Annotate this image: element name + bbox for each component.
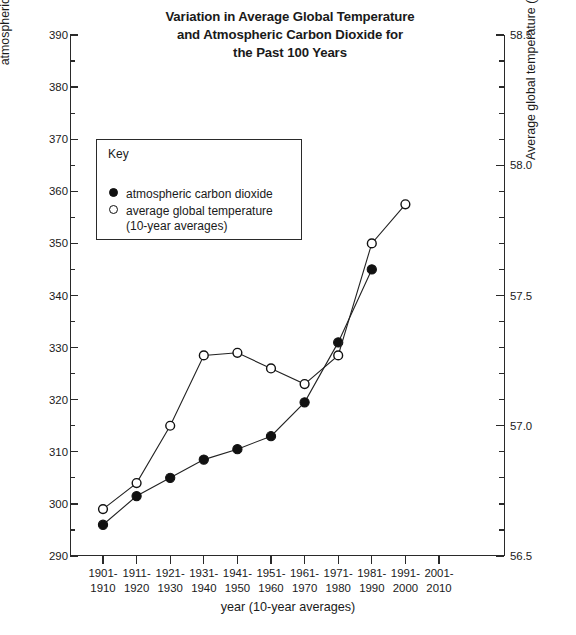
data-point-marker <box>199 351 208 360</box>
y-axis-left-tick-label: 320 <box>49 394 68 406</box>
series-line <box>103 269 372 524</box>
y-axis-right-tick-label: 56.5 <box>510 550 532 562</box>
y-axis-right-title: Average global temperature (°C) <box>524 0 538 160</box>
x-axis-tick <box>237 555 238 564</box>
y-axis-left-tick-label: 360 <box>49 185 68 197</box>
x-axis-tick <box>304 555 305 564</box>
y-axis-left-tick-label: 340 <box>49 290 68 302</box>
legend-heading: Key <box>108 147 129 161</box>
data-point-marker <box>233 445 242 454</box>
legend-item-label: average global temperature (10-year aver… <box>126 204 273 235</box>
x-axis-tick <box>438 555 439 564</box>
data-point-marker <box>132 491 141 500</box>
x-axis-tick <box>270 555 271 564</box>
x-axis-tick <box>102 555 103 564</box>
x-axis-tick <box>371 555 372 564</box>
data-point-marker <box>300 380 309 389</box>
y-axis-left-tick-label: 290 <box>49 550 68 562</box>
y-axis-right-tick-label: 57.5 <box>510 290 532 302</box>
plot-area: 290300310320330340350360370380390 56.557… <box>70 35 505 556</box>
data-point-marker <box>300 398 309 407</box>
data-point-marker <box>166 421 175 430</box>
data-point-marker <box>199 455 208 464</box>
series-lines <box>70 35 505 556</box>
data-point-marker <box>334 351 343 360</box>
x-axis-tick-label: 2001- 2010 <box>414 566 464 595</box>
y-axis-left-tick-label: 310 <box>49 446 68 458</box>
series-line <box>103 204 405 509</box>
y-axis-right-tick-label: 58.0 <box>510 159 532 171</box>
y-axis-right-tick-label: 57.0 <box>510 420 532 432</box>
data-point-marker <box>266 432 275 441</box>
data-point-marker <box>233 348 242 357</box>
data-point-marker <box>132 479 141 488</box>
x-axis-tick <box>170 555 171 564</box>
y-axis-left-tick-label: 380 <box>49 81 68 93</box>
x-axis-tick <box>203 555 204 564</box>
y-axis-left-tick-label: 330 <box>49 342 68 354</box>
data-point-marker <box>367 265 376 274</box>
y-axis-left-tick-label: 370 <box>49 133 68 145</box>
legend-item-global-temperature: average global temperature (10-year aver… <box>109 188 273 235</box>
y-axis-left-tick-label: 300 <box>49 498 68 510</box>
x-axis-tick <box>136 555 137 564</box>
data-point-marker <box>166 473 175 482</box>
y-axis-left-tick-label: 350 <box>49 237 68 249</box>
data-point-marker <box>267 364 276 373</box>
legend: Key atmospheric carbon dioxide average g… <box>96 139 302 240</box>
x-axis-title: year (10-year averages) <box>0 600 576 614</box>
y-axis-left-tick-label: 390 <box>49 29 68 41</box>
data-point-marker <box>367 239 376 248</box>
chart-figure: Variation in Average Global Temperature … <box>0 0 576 635</box>
x-axis-tick <box>338 555 339 564</box>
x-axis-tick <box>405 555 406 564</box>
y-axis-left-title: atmospheric carbon dioxide (parts per mi… <box>0 0 12 120</box>
data-point-marker <box>99 505 108 514</box>
data-point-marker <box>401 200 410 209</box>
open-circle-icon <box>109 205 118 214</box>
data-point-marker <box>98 520 107 529</box>
